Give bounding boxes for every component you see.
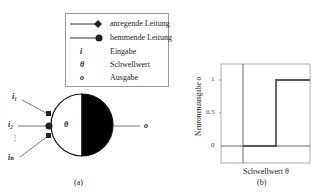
synapse-n-icon <box>46 133 51 138</box>
ytick-label-1: 1 <box>211 75 215 83</box>
neuron-body-right <box>82 94 113 156</box>
chart-frame <box>221 64 310 163</box>
y-axis-label: Neuronenausgabe o <box>194 77 203 136</box>
caption-b: (b) <box>257 178 266 187</box>
input-line-n <box>20 136 48 157</box>
input-line-1 <box>22 100 48 114</box>
threshold-label: θ <box>64 120 68 129</box>
input-label-1: i₁ <box>12 92 17 101</box>
synapse-1-icon <box>46 111 51 116</box>
x-axis-label: Schwellwert θ <box>243 167 289 176</box>
neuron-diagram <box>0 0 320 194</box>
input-label-2: i₂ <box>8 120 13 129</box>
input-label-n: iₙ <box>8 152 14 162</box>
ytick-label-0: 0 <box>211 141 215 149</box>
ytick-label-05: 0.5 <box>206 108 215 116</box>
synapse-2-icon <box>46 123 53 130</box>
input-ellipsis: ⋮ <box>11 133 19 142</box>
step-function-line <box>243 80 310 146</box>
caption-a: (a) <box>74 178 83 187</box>
output-label: o <box>144 121 148 130</box>
